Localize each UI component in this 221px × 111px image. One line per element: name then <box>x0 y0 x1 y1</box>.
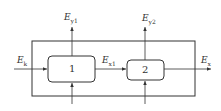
loss1-label: Ey1 <box>64 13 78 24</box>
output-label: Ex <box>201 56 211 67</box>
loss2-label: Ey2 <box>142 14 156 25</box>
input-label: Ek <box>17 56 27 67</box>
block-2-label: 2 <box>142 65 148 75</box>
block-1-label: 1 <box>69 64 75 74</box>
intermediate-label: Ex1 <box>102 56 116 67</box>
